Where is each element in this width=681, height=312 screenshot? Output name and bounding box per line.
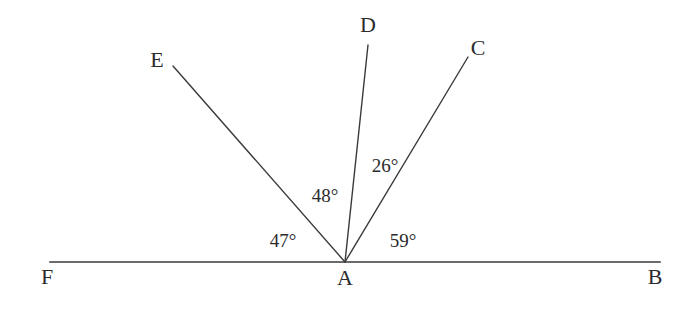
point-label-A: A xyxy=(337,267,353,289)
point-label-B: B xyxy=(648,266,663,288)
point-label-D: D xyxy=(360,14,376,36)
angle-diagram-figure: E D C F A B 47° 48° 26° 59° xyxy=(0,0,681,312)
angle-label-EAD: 48° xyxy=(312,186,339,205)
point-label-C: C xyxy=(471,37,486,59)
ray-AE xyxy=(173,66,345,262)
angle-label-CAB: 59° xyxy=(390,231,417,250)
point-label-F: F xyxy=(41,266,53,288)
angle-label-DAC: 26° xyxy=(372,156,399,175)
point-label-E: E xyxy=(150,49,163,71)
angle-label-FAE: 47° xyxy=(270,231,297,250)
